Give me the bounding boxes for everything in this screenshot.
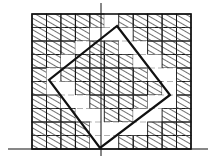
hatched-cell (148, 28, 162, 42)
empty-cell (148, 55, 162, 69)
hatched-cell (32, 28, 46, 42)
hatched-cell (61, 28, 75, 42)
hatched-cell (61, 41, 75, 55)
hatched-cell (119, 95, 133, 109)
hatched-cell (46, 109, 60, 123)
empty-cell (162, 68, 176, 82)
hatched-cell (75, 28, 89, 42)
hatched-cell (104, 109, 118, 123)
hatched-cell (162, 136, 176, 150)
hatched-cell (75, 68, 89, 82)
hatched-cell (32, 82, 46, 96)
hatched-cell (148, 14, 162, 28)
hatched-cell (133, 136, 147, 150)
hatched-cell (177, 95, 191, 109)
empty-cell (133, 41, 147, 55)
hatched-cell (104, 82, 118, 96)
hatched-cell (32, 122, 46, 136)
hatched-cell (148, 122, 162, 136)
hatched-cell (90, 68, 104, 82)
raster-square-diagram (0, 0, 215, 166)
hatched-cell (46, 14, 60, 28)
hatched-cell (104, 68, 118, 82)
hatched-cell (119, 68, 133, 82)
hatched-cell (162, 28, 176, 42)
hatched-cell (75, 136, 89, 150)
hatched-cell (133, 95, 147, 109)
hatched-cell (90, 14, 104, 28)
hatched-cell (104, 41, 118, 55)
hatched-cell (90, 95, 104, 109)
hatched-cell (32, 95, 46, 109)
hatched-cell (61, 14, 75, 28)
hatched-cell (177, 122, 191, 136)
hatched-cell (32, 41, 46, 55)
hatched-cell (32, 55, 46, 69)
hatched-cell (162, 122, 176, 136)
hatched-cell (133, 68, 147, 82)
hatched-cell (32, 136, 46, 150)
hatched-cell (177, 55, 191, 69)
empty-cell (90, 109, 104, 123)
hatched-cell (148, 136, 162, 150)
hatched-cell (162, 14, 176, 28)
hatched-cell (90, 82, 104, 96)
hatched-cell (119, 14, 133, 28)
hatched-cell (162, 41, 176, 55)
empty-cell (133, 122, 147, 136)
hatched-cell (133, 14, 147, 28)
hatched-cell (133, 82, 147, 96)
hatched-cell (61, 136, 75, 150)
hatched-cell (148, 41, 162, 55)
hatched-cell (177, 68, 191, 82)
hatched-cell (177, 28, 191, 42)
empty-cell (104, 122, 118, 136)
hatched-cell (177, 136, 191, 150)
hatched-cell (119, 55, 133, 69)
hatched-cell (46, 136, 60, 150)
hatched-cell (104, 55, 118, 69)
diagram-stage (0, 0, 215, 166)
hatched-cell (104, 95, 118, 109)
hatched-cell (119, 136, 133, 150)
hatched-cell (46, 122, 60, 136)
empty-cell (61, 82, 75, 96)
hatched-cell (32, 68, 46, 82)
hatched-cell (177, 41, 191, 55)
empty-cell (90, 122, 104, 136)
hatched-cell (177, 82, 191, 96)
hatched-cell (46, 28, 60, 42)
hatched-cell (46, 95, 60, 109)
hatched-cell (90, 55, 104, 69)
hatched-cell (46, 55, 60, 69)
hatched-cell (75, 82, 89, 96)
hatched-cell (177, 109, 191, 123)
hatched-cell (32, 109, 46, 123)
empty-cell (162, 95, 176, 109)
empty-cell (75, 95, 89, 109)
hatched-cell (119, 109, 133, 123)
hatched-cell (133, 28, 147, 42)
hatched-cell (162, 109, 176, 123)
hatched-cell (162, 55, 176, 69)
hatched-cell (75, 14, 89, 28)
hatched-cell (119, 82, 133, 96)
empty-cell (75, 109, 89, 123)
hatched-cell (61, 122, 75, 136)
hatched-cell (177, 14, 191, 28)
hatched-cell (32, 14, 46, 28)
hatched-cell (46, 41, 60, 55)
